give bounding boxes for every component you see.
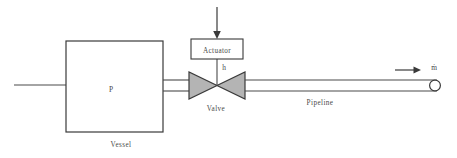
mass-flow-rate-symbol: ṁ	[431, 63, 437, 72]
valve-label: Valve	[207, 105, 225, 113]
process-diagram: P Vessel Valve h Actuator	[0, 0, 457, 158]
pipe-outlet-opening	[430, 80, 441, 91]
control-signal-arrow	[213, 7, 221, 39]
vessel-to-valve-pipe	[163, 80, 189, 91]
valve-lift-label: h	[222, 63, 226, 72]
pipeline-pipe	[245, 80, 437, 91]
vessel-box	[66, 41, 163, 132]
diagram-canvas: P Vessel Valve h Actuator	[0, 0, 457, 158]
actuator-label: Actuator	[203, 47, 231, 55]
mass-flow-arrow	[395, 67, 421, 74]
pipeline-label: Pipeline	[307, 99, 334, 107]
vessel-label: Vessel	[111, 141, 132, 149]
vessel-pressure-symbol: P	[109, 85, 113, 94]
